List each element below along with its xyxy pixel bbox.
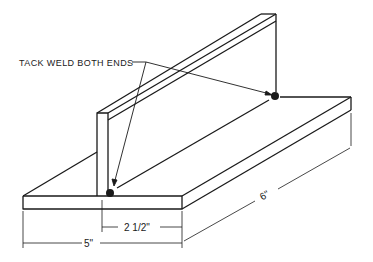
tack-weld-back <box>271 92 279 100</box>
dimension-length: 6" <box>258 188 272 202</box>
weld-diagram: TACK WELD BOTH ENDS 2 1/2" 5" 6" <box>0 0 373 262</box>
tack-weld-front <box>106 189 114 197</box>
dimension-offset: 2 1/2" <box>124 222 150 233</box>
callout-leaders <box>112 62 272 186</box>
base-plate <box>23 97 351 209</box>
vertical-plate <box>97 14 276 196</box>
dimension-lines <box>23 113 351 248</box>
dimension-width: 5" <box>84 238 94 249</box>
callout-label: TACK WELD BOTH ENDS <box>19 58 133 68</box>
